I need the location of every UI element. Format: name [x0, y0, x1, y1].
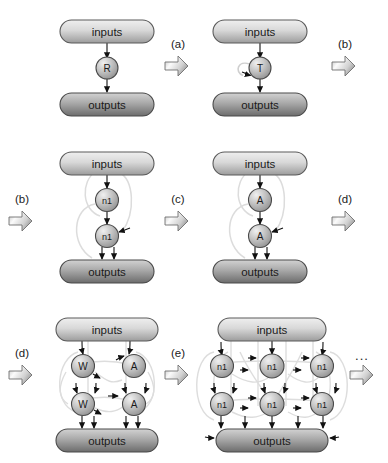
panel-6-node-3: n1: [211, 393, 234, 416]
panel-3-node-1: n1: [96, 225, 119, 248]
panel-5-node-3-label: A: [131, 399, 138, 410]
panel-2-outputs-box: outputs: [213, 93, 307, 116]
panel-6-node-4-label: n1: [267, 400, 277, 410]
panel-5-node-1-label: A: [131, 361, 138, 372]
panel-4-node-1: A: [249, 225, 272, 248]
step-arrow-b2-label: (b): [15, 193, 29, 205]
panel-5-node-0: W: [72, 355, 95, 378]
panel-4-node-0: A: [249, 189, 272, 212]
step-arrow-c-label: (c): [171, 193, 185, 205]
panel-4-outputs-box: outputs: [213, 260, 307, 283]
panel-4-outputs-label: outputs: [241, 266, 279, 278]
panel-4-node-0-label: A: [257, 195, 264, 206]
panel-6-node-1: n1: [260, 354, 284, 378]
step-arrow-d2-label: (d): [15, 347, 29, 359]
step-arrow-e-label: (e): [171, 347, 185, 359]
panel-6-outputs-box: outputs: [216, 429, 328, 452]
panel-6-node-4: n1: [260, 392, 284, 416]
panel-5-inputs-box: inputs: [56, 318, 158, 341]
panel-4-inputs-box: inputs: [213, 152, 307, 175]
panel-1-outputs-label: outputs: [88, 99, 126, 111]
step-arrow-b-label: (b): [338, 38, 352, 50]
panel-3-outputs-label: outputs: [88, 266, 126, 278]
panel-6-node-5-label: n1: [317, 400, 327, 410]
panel-6-node-0: n1: [211, 355, 234, 378]
panel-2-node-0-label: T: [257, 63, 263, 74]
panel-3-node-1-label: n1: [102, 232, 112, 242]
panel-3-node-0-label: n1: [102, 196, 112, 206]
panel-1-node-0-label: R: [103, 63, 110, 74]
network-evolution-diagram: inputs R outputs (a) inputs: [0, 0, 388, 463]
panel-3-node-0: n1: [96, 189, 119, 212]
panel-5-inputs-label: inputs: [92, 324, 123, 336]
panel-5-node-1: A: [123, 355, 146, 378]
panel-6-inputs-label: inputs: [257, 324, 288, 336]
panel-2-inputs-box: inputs: [213, 20, 307, 43]
panel-1-inputs-box: inputs: [60, 20, 154, 43]
panel-2-node-0: T: [249, 57, 271, 79]
panel-1-node-0: R: [96, 57, 118, 79]
panel-1-outputs-box: outputs: [60, 93, 154, 116]
step-arrow-more-label: ...: [355, 348, 369, 363]
diagram-canvas: inputs R outputs (a) inputs: [0, 0, 388, 463]
panel-3-outputs-box: outputs: [60, 260, 154, 283]
panel-6-node-1-label: n1: [267, 362, 277, 372]
step-arrow-d-label: (d): [338, 193, 352, 205]
panel-5-node-2: W: [72, 393, 95, 416]
panel-5-outputs-box: outputs: [56, 429, 158, 452]
panel-6-inputs-box: inputs: [218, 318, 326, 341]
panel-5-node-3: A: [123, 393, 146, 416]
panel-4-node-1-label: A: [257, 231, 264, 242]
step-arrow-a-label: (a): [171, 38, 185, 50]
panel-6-node-2-label: n1: [317, 362, 327, 372]
panel-4-inputs-label: inputs: [245, 158, 276, 170]
panel-6-node-5: n1: [311, 393, 334, 416]
panel-6-outputs-label: outputs: [253, 435, 291, 447]
panel-3-inputs-label: inputs: [92, 158, 123, 170]
panel-2-inputs-label: inputs: [245, 26, 276, 38]
panel-3-inputs-box: inputs: [60, 152, 154, 175]
panel-5-outputs-label: outputs: [88, 435, 126, 447]
panel-6-node-2: n1: [311, 355, 334, 378]
panel-1-inputs-label: inputs: [92, 26, 123, 38]
panel-6-node-3-label: n1: [217, 400, 227, 410]
panel-5-node-0-label: W: [78, 361, 88, 372]
panel-2-outputs-label: outputs: [241, 99, 279, 111]
panel-6-node-0-label: n1: [217, 362, 227, 372]
panel-5-node-2-label: W: [78, 399, 88, 410]
